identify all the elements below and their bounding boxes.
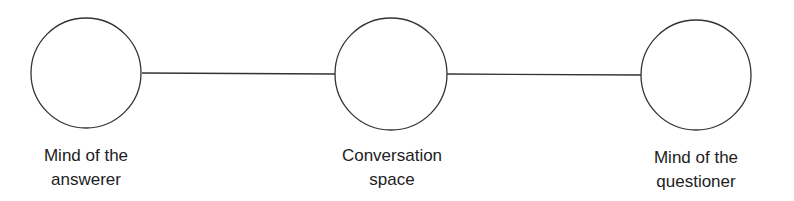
- node-answerer-label: Mind of the answerer: [6, 144, 166, 192]
- edge-answerer-conversation: [142, 73, 335, 74]
- label-line: space: [312, 168, 472, 192]
- label-line: Mind of the: [6, 144, 166, 168]
- label-line: Conversation: [312, 144, 472, 168]
- label-line: Mind of the: [616, 146, 776, 170]
- node-answerer-circle: [31, 18, 141, 128]
- label-line: answerer: [6, 168, 166, 192]
- edge-conversation-questioner: [447, 74, 641, 75]
- node-questioner-circle: [641, 20, 751, 130]
- node-conversation-label: Conversation space: [312, 144, 472, 192]
- node-conversation-circle: [335, 18, 447, 130]
- label-line: questioner: [616, 170, 776, 194]
- node-questioner-label: Mind of the questioner: [616, 146, 776, 194]
